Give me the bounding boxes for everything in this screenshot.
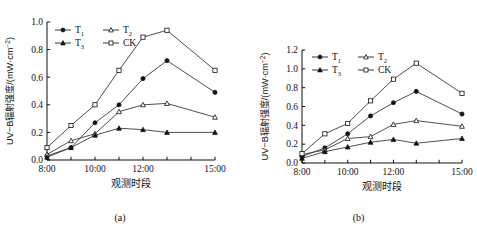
data-point-filled-circle xyxy=(391,101,395,105)
plot-area-b: 0.00.20.40.60.81.01.28:0010:0012:0015:00… xyxy=(240,0,477,200)
data-point-open-square xyxy=(391,77,395,81)
svg-text:UV−B辐射强度/(mW·cm−2): UV−B辐射强度/(mW·cm−2) xyxy=(259,53,270,161)
legend-item-T3: T3 xyxy=(312,65,341,76)
chart-panel-a: 0.00.20.40.60.81.08:0010:0012:0015:00UV−… xyxy=(0,0,240,227)
legend-label: T2 xyxy=(378,52,387,63)
data-point-open-square xyxy=(368,99,372,103)
data-point-filled-circle xyxy=(368,114,372,118)
panel-a-caption: (a) xyxy=(0,212,240,223)
y-tick-label: 0.8 xyxy=(286,83,298,93)
data-point-open-square xyxy=(69,123,73,127)
data-point-filled-circle xyxy=(141,76,145,80)
legend-marker-open-triangle xyxy=(358,55,374,59)
legend-marker-open-square xyxy=(358,68,374,72)
data-point-open-square xyxy=(323,132,327,136)
y-tick-label: 0.6 xyxy=(286,102,298,112)
x-tick-label: 12:00 xyxy=(132,164,154,174)
data-point-open-square xyxy=(93,103,97,107)
legend-item-T2: T2 xyxy=(358,52,387,63)
legend-marker-filled-triangle xyxy=(55,41,71,45)
legend-item-T2: T2 xyxy=(103,25,132,36)
data-point-filled-circle xyxy=(93,121,97,125)
y-tick-label: 0.6 xyxy=(31,73,43,83)
panel-b-caption: (b) xyxy=(240,212,477,223)
y-tick-label: 1.0 xyxy=(31,17,43,27)
legend-marker-open-square xyxy=(103,41,119,45)
legend-label: CK xyxy=(123,38,136,48)
x-tick-label: 8:00 xyxy=(294,167,311,177)
x-tick-label: 8:00 xyxy=(39,164,56,174)
x-tick-label: 15:00 xyxy=(204,164,226,174)
legend-label: T2 xyxy=(123,25,132,36)
legend-label: T3 xyxy=(332,65,341,76)
x-axis-title: 观测时段 xyxy=(111,177,151,189)
y-tick-label: 1.2 xyxy=(286,45,298,55)
data-point-filled-circle xyxy=(165,59,169,63)
legend-marker-filled-circle xyxy=(312,55,328,59)
data-point-open-square xyxy=(346,121,350,125)
legend-marker-open-triangle xyxy=(103,28,119,32)
legend-label: T1 xyxy=(332,52,341,63)
data-point-filled-triangle xyxy=(391,137,396,142)
x-tick-label: 12:00 xyxy=(383,167,405,177)
data-point-open-triangle xyxy=(414,118,419,123)
series-line-CK xyxy=(302,63,462,153)
data-point-open-square xyxy=(45,145,49,149)
data-point-filled-circle xyxy=(460,112,464,116)
data-point-open-square xyxy=(460,91,464,95)
data-point-open-square xyxy=(117,68,121,72)
x-tick-label: 10:00 xyxy=(84,164,106,174)
x-tick-label: 10:00 xyxy=(337,167,359,177)
chart-panel-b: 0.00.20.40.60.81.01.28:0010:0012:0015:00… xyxy=(240,0,477,227)
y-tick-label: 1.0 xyxy=(286,64,298,74)
legend-item-CK: CK xyxy=(358,65,391,75)
legend-item-T3: T3 xyxy=(55,38,84,49)
data-point-open-square xyxy=(300,151,304,155)
svg-text:UV−B辐射强度/(mW·cm−2): UV−B辐射强度/(mW·cm−2) xyxy=(4,37,15,145)
y-tick-label: 0.2 xyxy=(286,139,298,149)
legend: T1T2T3CK xyxy=(312,52,391,76)
data-point-open-square xyxy=(165,28,169,32)
y-tick-label: 0.4 xyxy=(286,121,298,131)
legend-item-T1: T1 xyxy=(312,52,341,63)
y-tick-label: 0.4 xyxy=(31,100,43,110)
x-axis-title: 观测时段 xyxy=(362,180,402,192)
legend-marker-filled-circle xyxy=(55,28,71,32)
data-point-filled-circle xyxy=(117,103,121,107)
data-point-filled-circle xyxy=(213,90,217,94)
figure-uvb-radiation: 0.00.20.40.60.81.08:0010:0012:0015:00UV−… xyxy=(0,0,477,227)
data-point-open-square xyxy=(414,61,418,65)
y-tick-label: 0.8 xyxy=(31,45,43,55)
x-tick-label: 15:00 xyxy=(451,167,473,177)
legend-label: T1 xyxy=(75,25,84,36)
data-point-filled-circle xyxy=(414,89,418,93)
legend-marker-filled-triangle xyxy=(312,68,328,72)
y-axis-title: UV−B辐射强度/(mW·cm−2) xyxy=(259,53,270,161)
y-tick-label: 0.2 xyxy=(31,128,43,138)
legend-label: CK xyxy=(378,65,391,75)
legend-label: T3 xyxy=(75,38,84,49)
data-point-open-square xyxy=(141,35,145,39)
data-point-open-square xyxy=(213,68,217,72)
plot-area-a: 0.00.20.40.60.81.08:0010:0012:0015:00UV−… xyxy=(0,0,240,200)
legend: T1T2T3CK xyxy=(55,25,136,49)
y-axis-title: UV−B辐射强度/(mW·cm−2) xyxy=(4,37,15,145)
legend-item-CK: CK xyxy=(103,38,136,48)
legend-item-T1: T1 xyxy=(55,25,84,36)
